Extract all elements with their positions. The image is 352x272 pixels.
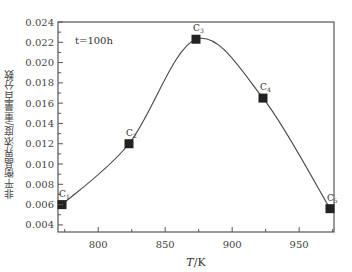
data-curve [62,38,330,208]
square-marker-icon [325,204,334,213]
point-label: C3 [193,23,204,34]
y-tick-label: 0.020 [25,57,54,68]
square-marker-icon [258,94,267,103]
fit-curve [62,38,330,208]
point-label: C4 [260,82,271,93]
time-annotation: t=100h [75,35,113,46]
line-chart: C1C2C3C4C5 0.0040.0060.0080.0100.0120.01… [0,0,352,272]
y-tick-label: 0.010 [25,159,54,170]
y-tick-label: 0.008 [25,179,54,190]
square-marker-icon [192,35,201,44]
annotation-text: t=100h [75,35,113,46]
y-axis-title: 非平衡晶界浓度/重量百分数 [2,44,16,224]
x-tick-label: 900 [223,239,242,250]
x-axis-title: T/K [186,256,206,269]
y-tick-label: 0.014 [25,118,54,129]
y-tick-label: 0.006 [25,199,54,210]
plot-area [58,22,334,232]
y-tick-label: 0.004 [25,219,54,230]
y-tick-label: 0.024 [25,17,54,28]
point-label: C2 [126,128,137,139]
y-tick-label: 0.022 [25,37,54,48]
x-tick-label: 950 [290,239,309,250]
y-tick-label: 0.018 [25,77,54,88]
x-tick-label: 850 [156,239,175,250]
y-tick-label: 0.016 [25,98,54,109]
plot-frame [58,22,334,232]
square-marker-icon [125,139,134,148]
x-tick-label: 800 [89,239,108,250]
y-tick-label: 0.012 [25,138,54,149]
point-label: C5 [327,193,338,204]
data-points: C1C2C3C4C5 [58,23,338,213]
